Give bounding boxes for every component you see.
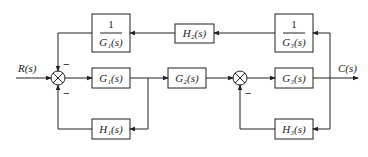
h3-label: H₃(s) [281, 123, 306, 136]
output-label: C(s) [338, 62, 357, 75]
sum1-bottom-sign: − [63, 87, 69, 99]
h2-label: H₂(s) [182, 27, 207, 40]
sum1-junction [51, 71, 65, 85]
block-diagram: R(s) C(s) 1 G₁(s) H₂(s) 1 G₃(s) G₁(s) G₂… [0, 0, 368, 157]
g2-label: G₂(s) [175, 72, 199, 85]
inv-g1-numerator: 1 [108, 18, 114, 30]
top-feedback-in-line [313, 33, 330, 78]
g3-label: G₃(s) [282, 72, 306, 85]
h3-feedback-in-line [313, 78, 330, 129]
input-label: R(s) [17, 62, 37, 75]
sum2-junction [233, 71, 247, 85]
inv-g3-numerator: 1 [291, 18, 297, 30]
h1-feedback-in-line [130, 78, 148, 129]
sum2-bottom-sign: − [245, 87, 251, 99]
inv-g3-denominator: G₃(s) [282, 36, 306, 49]
sum1-top-sign: − [63, 58, 69, 70]
h1-label: H₁(s) [98, 123, 123, 136]
g1-label: G₁(s) [99, 72, 123, 85]
inv-g1-denominator: G₁(s) [99, 36, 123, 49]
